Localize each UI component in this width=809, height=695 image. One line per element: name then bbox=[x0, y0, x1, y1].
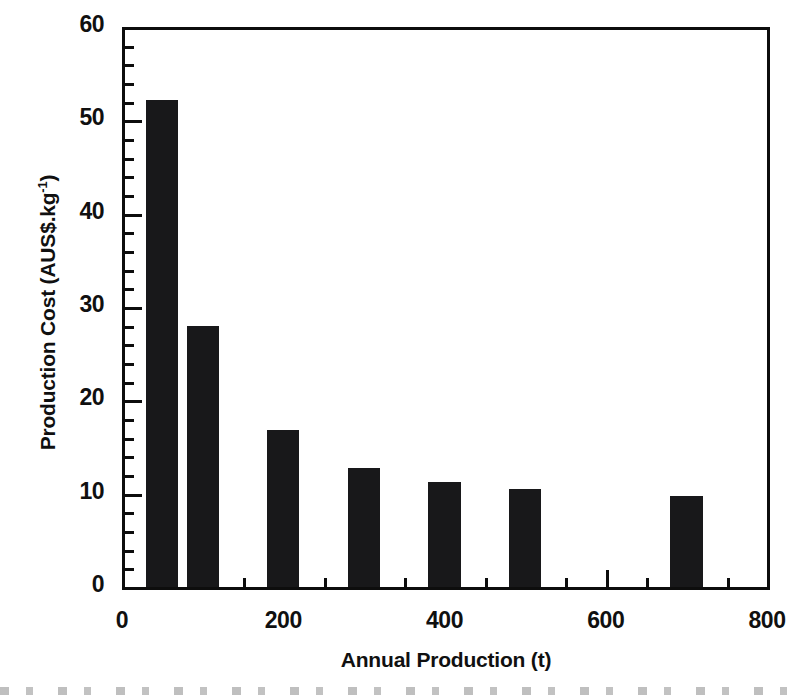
x-tick-label: 200 bbox=[238, 607, 328, 634]
y-tick-label: 40 bbox=[24, 198, 104, 225]
x-axis-tick-labels: 0200400600800 bbox=[122, 607, 809, 639]
bar bbox=[348, 468, 380, 587]
y-tick-label: 30 bbox=[24, 291, 104, 318]
x-axis-title: Annual Production (t) bbox=[122, 648, 770, 672]
bar bbox=[670, 496, 702, 587]
axis-line-right bbox=[767, 27, 770, 590]
bar bbox=[187, 326, 219, 587]
x-tick-label: 400 bbox=[400, 607, 490, 634]
scan-artifact bbox=[0, 687, 809, 695]
bar bbox=[428, 482, 460, 587]
y-tick-label: 50 bbox=[24, 104, 104, 131]
y-axis-tick-labels: 0102030405060 bbox=[24, 27, 104, 590]
bar bbox=[146, 100, 178, 587]
x-tick-label: 800 bbox=[722, 607, 809, 634]
x-tick-label: 600 bbox=[561, 607, 651, 634]
y-tick-label: 60 bbox=[24, 11, 104, 38]
y-tick-label: 10 bbox=[24, 478, 104, 505]
plot-area bbox=[122, 27, 770, 590]
bar-chart-figure: Production Cost (AUS$.kg-1) 010203040506… bbox=[0, 0, 809, 695]
bar-series bbox=[122, 27, 767, 587]
y-tick-label: 20 bbox=[24, 384, 104, 411]
bar bbox=[509, 489, 541, 587]
bar bbox=[267, 430, 299, 587]
x-tick-label: 0 bbox=[77, 607, 167, 634]
y-tick-label: 0 bbox=[24, 571, 104, 598]
x-tick-major bbox=[767, 570, 770, 587]
